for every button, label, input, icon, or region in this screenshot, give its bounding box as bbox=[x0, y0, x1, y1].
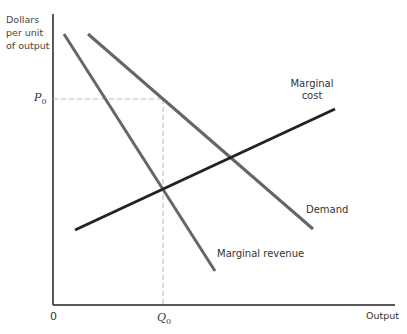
origin-label: 0 bbox=[50, 311, 57, 323]
marginal-cost-label-line: cost bbox=[286, 90, 338, 102]
marginal-revenue-curve bbox=[64, 34, 215, 271]
p0-label: P0 bbox=[34, 92, 47, 108]
marginal-cost-label-line: Marginal bbox=[286, 78, 338, 90]
marginal-revenue-label: Marginal revenue bbox=[217, 248, 304, 260]
y-axis-label-line: per unit bbox=[6, 26, 50, 39]
q0-label: Q0 bbox=[157, 312, 171, 328]
q-symbol: Q bbox=[157, 311, 166, 324]
demand-curve bbox=[88, 34, 313, 229]
x-axis-label: Output bbox=[366, 310, 399, 322]
diagram-canvas bbox=[0, 0, 407, 334]
marginal-cost-label: Marginal cost bbox=[286, 78, 338, 102]
y-axis-label-line: of output bbox=[6, 39, 50, 52]
demand-label: Demand bbox=[306, 204, 348, 216]
y-axis-label-line: Dollars bbox=[6, 13, 50, 26]
marginal-cost-curve bbox=[75, 109, 335, 230]
y-axis-label: Dollars per unit of output bbox=[6, 13, 50, 52]
q-subscript: 0 bbox=[166, 317, 171, 326]
p-subscript: 0 bbox=[41, 97, 46, 106]
